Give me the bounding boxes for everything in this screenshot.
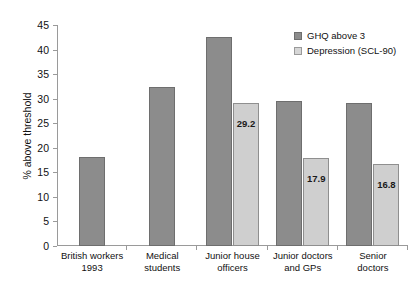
y-tick-label: 5 [9, 216, 49, 227]
y-tick-label: 25 [9, 118, 49, 129]
x-tick-label-line: Medical [128, 250, 196, 262]
bar-chart: % above threshold 051015202530354045 29.… [0, 0, 413, 297]
x-tick-label-line: officers [198, 262, 266, 274]
x-tick-label-line: and GPs [269, 262, 337, 274]
y-tick-label: 30 [9, 93, 49, 104]
legend-swatch-icon [294, 47, 302, 55]
y-tick-mark [53, 246, 57, 247]
legend-item-depression: Depression (SCL-90) [294, 44, 396, 57]
bar-group: 29.2 [197, 25, 267, 246]
y-tick-label: 15 [9, 167, 49, 178]
bar [79, 157, 105, 246]
bar-group [57, 25, 127, 246]
chart-legend: GHQ above 3 Depression (SCL-90) [294, 29, 396, 59]
x-tick-label: Junior doctorsand GPs [268, 250, 338, 274]
bar [276, 101, 302, 246]
bar: 16.8 [373, 164, 399, 247]
y-tick-label: 10 [9, 192, 49, 203]
bar [206, 37, 232, 246]
bar-value-label: 16.8 [377, 179, 396, 190]
x-tick-label-line: Junior doctors [269, 250, 337, 262]
x-tick-label: British workers1993 [57, 250, 127, 274]
bar-value-label: 17.9 [307, 173, 326, 184]
legend-swatch-icon [294, 32, 302, 40]
bar-group [127, 25, 197, 246]
bar [346, 103, 372, 246]
legend-label: GHQ above 3 [307, 30, 365, 41]
x-tick-label: Seniordoctors [338, 250, 408, 274]
x-tick-label-line: 1993 [58, 262, 126, 274]
y-tick-label: 40 [9, 44, 49, 55]
bar [149, 87, 175, 246]
x-tick-label-line: doctors [339, 262, 407, 274]
x-tick-label-line: Junior house [198, 250, 266, 262]
x-tick-label-line: Senior [339, 250, 407, 262]
y-tick-label: 35 [9, 69, 49, 80]
x-tick-label-line: students [128, 262, 196, 274]
x-axis-labels: British workers1993MedicalstudentsJunior… [57, 250, 408, 274]
legend-label: Depression (SCL-90) [307, 45, 396, 56]
legend-item-ghq: GHQ above 3 [294, 29, 396, 42]
bar: 29.2 [233, 103, 259, 246]
bar-value-label: 29.2 [237, 118, 256, 129]
bar: 17.9 [303, 158, 329, 246]
y-tick-label: 0 [9, 241, 49, 252]
x-tick-label-line: British workers [58, 250, 126, 262]
x-tick-label: Junior houseofficers [197, 250, 267, 274]
y-tick-label: 20 [9, 143, 49, 154]
x-tick-label: Medicalstudents [127, 250, 197, 274]
y-tick-label: 45 [9, 20, 49, 31]
